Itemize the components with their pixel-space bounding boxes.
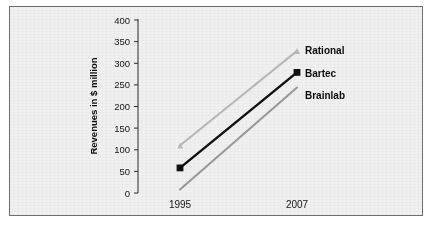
- series-line-brainlab: [180, 88, 297, 190]
- series-marker-rational-2007: [295, 48, 301, 54]
- y-tick-label-50: 50: [119, 166, 130, 177]
- x-tick-label-2007: 2007: [286, 199, 309, 210]
- series-marker-bartec-2007: [294, 69, 301, 76]
- series-label-brainlab: Brainlab: [305, 90, 345, 101]
- chart-frame: 400 350 300 250 200 150 100 50 0 Revenue…: [9, 6, 423, 216]
- series-line-bartec: [180, 72, 297, 167]
- series-line-rational: [180, 51, 297, 146]
- y-tick-label-200: 200: [114, 101, 130, 112]
- series-label-rational: Rational: [305, 45, 345, 56]
- series-marker-bartec-1995: [177, 165, 184, 172]
- y-axis-ticks: [134, 20, 138, 193]
- series-label-bartec: Bartec: [305, 68, 337, 79]
- y-axis-title: Revenues in $ million: [88, 57, 99, 154]
- y-tick-label-350: 350: [114, 36, 130, 47]
- y-tick-label-0: 0: [125, 188, 130, 199]
- y-tick-label-400: 400: [114, 15, 130, 26]
- y-tick-label-100: 100: [114, 144, 130, 155]
- y-tick-label-300: 300: [114, 58, 130, 69]
- x-tick-label-1995: 1995: [169, 199, 192, 210]
- y-tick-label-250: 250: [114, 79, 130, 90]
- y-tick-label-150: 150: [114, 123, 130, 134]
- slope-chart: 400 350 300 250 200 150 100 50 0 Revenue…: [10, 7, 422, 215]
